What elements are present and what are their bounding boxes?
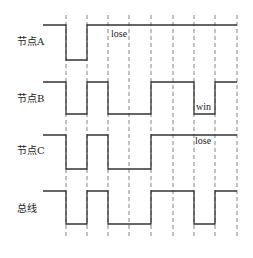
node-a-waveform [43, 25, 237, 60]
signal-waveforms [43, 25, 237, 224]
bus-waveform [43, 191, 237, 224]
node-a-label: 节点A [17, 36, 45, 47]
node-c-label: 节点C [17, 145, 45, 156]
node-b-annotation-win: win [196, 101, 211, 112]
annotations: losewinlose [111, 28, 212, 146]
bus-label: 总线 [17, 202, 37, 214]
timing-diagram: 节点A节点B节点C总线 losewinlose [0, 0, 253, 258]
row-labels: 节点A节点B节点C总线 [17, 36, 45, 214]
node-b-label: 节点B [17, 93, 44, 104]
node-c-annotation-lose: lose [195, 135, 212, 146]
node-a-annotation-lose: lose [111, 28, 128, 39]
